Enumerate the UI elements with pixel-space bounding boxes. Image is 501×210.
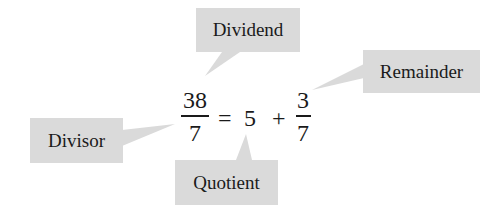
divisor-pointer bbox=[122, 124, 175, 146]
dividend-value: 38 bbox=[183, 88, 207, 112]
left-fraction: 38 7 bbox=[180, 88, 210, 145]
divisor-label-text: Divisor bbox=[48, 130, 105, 152]
remainder-value: 3 bbox=[297, 88, 309, 112]
fraction-bar bbox=[296, 115, 311, 117]
dividend-label: Dividend bbox=[196, 8, 300, 52]
quotient-label-text: Quotient bbox=[193, 172, 260, 194]
quotient-pointer bbox=[236, 134, 252, 160]
right-fraction: 3 7 bbox=[295, 88, 311, 145]
dividend-pointer bbox=[205, 52, 240, 76]
remainder-label-text: Remainder bbox=[380, 61, 463, 83]
fraction-bar bbox=[181, 115, 209, 117]
dividend-label-text: Dividend bbox=[213, 19, 284, 41]
division-diagram: Dividend Remainder Divisor Quotient 38 7… bbox=[0, 0, 501, 210]
quotient-value: 5 bbox=[244, 106, 256, 130]
divisor-label: Divisor bbox=[30, 118, 123, 163]
remainder-pointer bbox=[312, 64, 364, 90]
quotient-label: Quotient bbox=[175, 160, 278, 205]
divisor-value: 7 bbox=[189, 121, 201, 145]
equals-sign: = bbox=[218, 106, 232, 130]
divisor-value-right: 7 bbox=[297, 121, 309, 145]
plus-sign: + bbox=[272, 106, 286, 130]
remainder-label: Remainder bbox=[363, 50, 480, 93]
